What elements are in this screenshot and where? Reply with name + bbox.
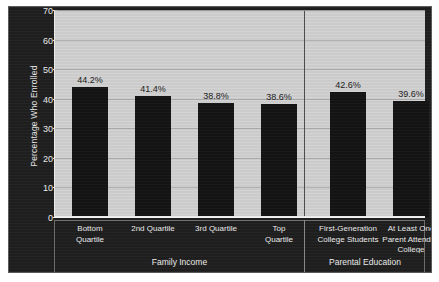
bar-chart-figure: Percentage Who Enrolled 010203040506070 … bbox=[8, 6, 432, 273]
gridline bbox=[55, 158, 425, 159]
group-label-band: Family IncomeParental Education bbox=[54, 253, 425, 273]
gridline bbox=[55, 128, 425, 129]
bar bbox=[198, 103, 234, 218]
group-band-divider bbox=[304, 252, 305, 273]
category-label: At Least OneParent AttendedCollege bbox=[371, 224, 432, 256]
bar bbox=[330, 92, 366, 218]
category-band-divider bbox=[304, 220, 305, 254]
gridline bbox=[55, 187, 425, 188]
bar-value-label: 38.8% bbox=[190, 91, 242, 101]
group-label: Family Income bbox=[55, 257, 304, 268]
y-axis-tick-label: 20 bbox=[31, 155, 53, 164]
bar bbox=[393, 101, 429, 218]
bar-value-label: 44.2% bbox=[64, 75, 116, 85]
category-label: TopQuartile bbox=[239, 224, 319, 245]
bar-value-label: 38.6% bbox=[253, 92, 305, 102]
gridline bbox=[55, 69, 425, 70]
y-axis-tick-label: 10 bbox=[31, 184, 53, 193]
category-label-line: Quartile bbox=[50, 235, 130, 246]
bar-value-label: 42.6% bbox=[322, 80, 374, 90]
y-axis-tick-labels: 010203040506070 bbox=[29, 7, 53, 222]
group-divider bbox=[304, 11, 305, 218]
bar-value-label: 39.6% bbox=[385, 89, 432, 99]
category-label-line: At Least One bbox=[371, 224, 432, 235]
category-label-line: Quartile bbox=[239, 235, 319, 246]
bar bbox=[72, 87, 108, 218]
y-axis-tick-label: 60 bbox=[31, 37, 53, 46]
group-label: Parental Education bbox=[304, 257, 426, 268]
gridline bbox=[55, 40, 425, 41]
y-axis-tick-label: 50 bbox=[31, 66, 53, 75]
bar bbox=[135, 96, 171, 218]
category-label-line: Top bbox=[239, 224, 319, 235]
gridline bbox=[55, 10, 425, 11]
plot-area: 44.2%41.4%38.8%38.6%42.6%39.6% bbox=[54, 11, 425, 218]
y-axis-tick-label: 30 bbox=[31, 125, 53, 134]
bar-value-label: 41.4% bbox=[127, 84, 179, 94]
y-axis-tick-label: 70 bbox=[31, 7, 53, 16]
category-label-line: Parent Attended bbox=[371, 235, 432, 246]
y-axis-tick-label: 40 bbox=[31, 96, 53, 105]
y-axis-tick-label: 0 bbox=[31, 214, 53, 223]
bar bbox=[261, 104, 297, 218]
category-label-band: BottomQuartile2nd Quartile3rd QuartileTo… bbox=[54, 220, 425, 254]
x-axis-baseline bbox=[55, 216, 425, 218]
